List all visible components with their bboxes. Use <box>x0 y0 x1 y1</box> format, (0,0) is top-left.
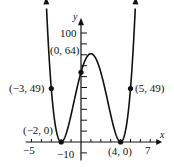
data-point <box>59 139 64 144</box>
y-tick-minus10: −10 <box>57 149 74 160</box>
x-axis-label: x <box>160 130 164 140</box>
y-tick-100: 100 <box>60 28 77 39</box>
y-axis-label: y <box>73 12 77 22</box>
x-tick-7: 7 <box>145 145 151 156</box>
function-curve <box>43 0 138 142</box>
data-point <box>128 86 133 91</box>
labeled-points <box>49 70 133 145</box>
point-label-m3-49: (−3, 49) <box>9 83 45 94</box>
point-label-5-49: (5, 49) <box>135 83 164 94</box>
x-tick-minus5: −5 <box>23 145 35 156</box>
data-point <box>78 70 83 75</box>
data-point <box>118 139 123 144</box>
point-label-0-64: (0, 64) <box>50 45 79 56</box>
point-label-m2-0: (−2, 0) <box>23 125 53 136</box>
point-label-4-0: (4, 0) <box>108 146 132 157</box>
data-point <box>49 86 54 91</box>
